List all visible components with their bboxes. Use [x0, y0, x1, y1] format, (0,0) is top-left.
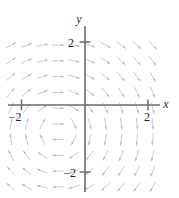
- field-arrow-head: [72, 141, 74, 144]
- vector-field-layer: [6, 41, 156, 192]
- field-arrow-head: [61, 123, 64, 125]
- field-arrow-head: [61, 60, 64, 62]
- field-arrow-head: [137, 110, 139, 113]
- field-arrow-head: [45, 75, 48, 77]
- x-tick-label-pos2: 2: [144, 110, 150, 124]
- field-arrow-head: [37, 169, 40, 171]
- y-axis-label: y: [75, 12, 82, 26]
- field-arrow-head: [61, 91, 64, 93]
- field-arrow-head: [137, 94, 139, 97]
- field-arrow-head: [9, 150, 11, 153]
- field-arrow-head: [29, 59, 32, 61]
- field-arrow-head: [153, 78, 156, 81]
- field-arrow-head: [43, 119, 45, 122]
- field-arrow-head: [153, 94, 155, 97]
- field-arrow-head: [135, 157, 137, 160]
- field-arrow-head: [151, 173, 153, 176]
- field-arrow-head: [103, 157, 105, 160]
- field-arrow-head: [13, 43, 16, 45]
- field-arrow-head: [37, 185, 40, 187]
- field-arrow-head: [40, 135, 42, 138]
- field-arrow-head: [53, 170, 56, 172]
- field-arrow-head: [53, 154, 56, 156]
- field-arrow-head: [135, 173, 137, 176]
- field-arrow-head: [53, 138, 56, 140]
- y-tick-label-neg2: −2: [63, 166, 76, 180]
- field-arrow-head: [29, 43, 32, 45]
- field-arrow-head: [61, 44, 64, 46]
- field-arrow-head: [91, 77, 94, 80]
- field-arrow-head: [150, 188, 153, 191]
- x-axis-label: x: [162, 97, 169, 111]
- field-arrow-head: [92, 61, 95, 63]
- direction-field-figure: y x −2 2 2 −2: [0, 0, 179, 198]
- field-arrow-head: [107, 45, 110, 47]
- field-arrow-head: [119, 157, 121, 160]
- field-arrow-head: [92, 45, 95, 47]
- field-arrow-head: [74, 126, 76, 129]
- field-arrow-head: [76, 92, 79, 94]
- x-tick-label-neg2: −2: [9, 110, 22, 124]
- field-arrow-head: [121, 110, 123, 113]
- field-arrow-head: [106, 110, 108, 113]
- axis-labels-layer: y x −2 2 2 −2: [9, 12, 170, 180]
- field-arrow-head: [61, 107, 64, 109]
- field-arrow-head: [44, 90, 47, 92]
- field-arrow-head: [69, 186, 72, 188]
- field-arrow-head: [22, 184, 25, 187]
- field-arrow-head: [28, 74, 31, 77]
- direction-field-plot: y x −2 2 2 −2: [0, 0, 179, 198]
- field-arrow-head: [61, 75, 64, 77]
- field-arrow-head: [53, 186, 56, 188]
- field-arrow-head: [76, 76, 79, 78]
- y-tick-label-pos2: 2: [68, 36, 74, 50]
